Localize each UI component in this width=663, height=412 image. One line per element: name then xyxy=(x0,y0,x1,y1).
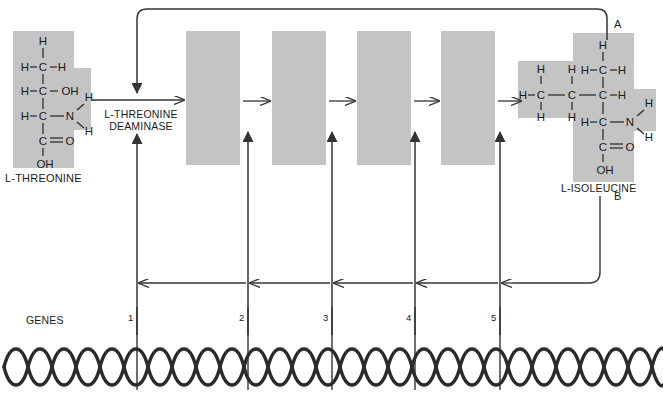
svg-text:N: N xyxy=(626,116,634,128)
svg-text:C: C xyxy=(39,110,47,122)
svg-text:H: H xyxy=(85,125,93,137)
intermediate-box-1 xyxy=(186,31,240,165)
intermediate-boxes xyxy=(186,31,495,165)
intermediate-box-3 xyxy=(357,31,411,165)
svg-text:H: H xyxy=(581,64,589,76)
intermediate-box-2 xyxy=(272,31,326,165)
product-shading xyxy=(518,33,656,182)
svg-text:OH: OH xyxy=(61,85,78,97)
svg-text:C: C xyxy=(599,116,607,128)
gene-number-1: 1 xyxy=(128,312,133,323)
svg-text:H: H xyxy=(39,35,47,47)
feedback-loop-b xyxy=(513,196,600,283)
svg-text:H: H xyxy=(568,63,576,75)
svg-text:H: H xyxy=(581,116,589,128)
svg-text:C: C xyxy=(599,89,607,101)
dna-double-helix xyxy=(4,348,663,386)
svg-text:C: C xyxy=(39,135,47,147)
diagram-canvas: H H C H H C OH H C N H H C O OH xyxy=(0,0,663,412)
svg-text:O: O xyxy=(66,135,75,147)
svg-text:H: H xyxy=(618,89,626,101)
svg-text:C: C xyxy=(39,85,47,97)
intermediate-box-4 xyxy=(441,31,495,165)
svg-text:H: H xyxy=(645,131,653,143)
svg-text:OH: OH xyxy=(596,164,613,176)
gene-number-4: 4 xyxy=(406,312,411,323)
svg-text:H: H xyxy=(58,61,66,73)
svg-text:H: H xyxy=(519,89,527,101)
substrate-shading xyxy=(13,31,91,168)
gene-number-2: 2 xyxy=(239,312,244,323)
feedback-loop-a-label: A xyxy=(614,18,622,30)
svg-text:C: C xyxy=(599,64,607,76)
svg-text:H: H xyxy=(537,63,545,75)
feedback-loop-b-label: B xyxy=(614,190,622,202)
product-label: L-ISOLEUCINE xyxy=(561,182,636,194)
substrate-label: L-THREONINE xyxy=(5,172,82,184)
enzyme-label-line-2: DEAMINASE xyxy=(101,120,181,132)
enzyme-label-line-1: L-THREONINE xyxy=(101,108,181,120)
svg-text:H: H xyxy=(537,111,545,123)
svg-text:C: C xyxy=(39,61,47,73)
svg-text:H: H xyxy=(645,97,653,109)
gene-number-5: 5 xyxy=(491,312,496,323)
pathway-diagram: H H C H H C OH H C N H H C O OH xyxy=(0,0,663,412)
svg-text:C: C xyxy=(599,141,607,153)
svg-text:C: C xyxy=(537,89,545,101)
svg-text:H: H xyxy=(21,85,29,97)
genes-label: GENES xyxy=(26,314,64,326)
svg-text:H: H xyxy=(85,91,93,103)
svg-text:O: O xyxy=(626,141,635,153)
gene-number-3: 3 xyxy=(323,312,328,323)
enzyme-label: L-THREONINE DEAMINASE xyxy=(101,108,181,132)
svg-text:H: H xyxy=(618,64,626,76)
svg-text:C: C xyxy=(568,89,576,101)
svg-text:H: H xyxy=(568,111,576,123)
svg-text:H: H xyxy=(21,61,29,73)
svg-text:OH: OH xyxy=(36,158,53,170)
svg-text:N: N xyxy=(66,110,74,122)
svg-text:H: H xyxy=(21,110,29,122)
svg-text:H: H xyxy=(599,39,607,51)
